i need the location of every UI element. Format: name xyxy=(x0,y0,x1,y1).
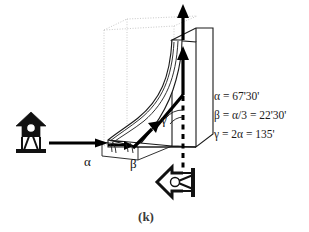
viewer-eye-circle-bottom xyxy=(171,178,180,187)
equation-alpha: α = 67'30' xyxy=(214,90,259,102)
equation-block: α = 67'30' β = α/3 = 22'30' γ = 2α = 135… xyxy=(213,90,286,141)
outlet-flow-arrow-icon xyxy=(177,4,189,40)
equation-beta: β = α/3 = 22'30' xyxy=(214,109,286,122)
equation-gamma: γ = 2α = 135' xyxy=(213,128,275,141)
angle-label-gamma: γ xyxy=(160,112,167,127)
viewer-eye-circle xyxy=(27,124,36,133)
viewer-arrow-left-icon xyxy=(157,167,195,197)
technical-diagram-canvas: α β γ α = 67'30' β = α/3 xyxy=(0,0,309,232)
figure-caption: (k) xyxy=(138,209,154,224)
viewer-arrow-up-icon xyxy=(16,112,46,153)
angle-label-beta: β xyxy=(130,156,137,171)
angle-label-alpha: α xyxy=(84,154,91,169)
viewer-base-bar xyxy=(16,149,46,153)
figure-root: α β γ α = 67'30' β = α/3 xyxy=(0,0,309,232)
